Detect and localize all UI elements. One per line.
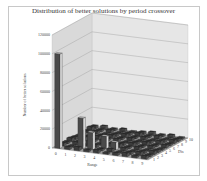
bar-front (93, 150, 98, 153)
x-tick-label: 6 (112, 158, 114, 163)
z-tick-label: 7 (177, 144, 179, 149)
z-tick-label: 10 (189, 137, 193, 142)
bar-side (83, 117, 85, 148)
bar-side (60, 53, 62, 148)
y-axis-label: Number of better solutions (22, 73, 27, 116)
y-tick-label: 0 (48, 145, 50, 150)
x-axis-label: Range (87, 162, 97, 167)
bar-side (93, 132, 95, 150)
bar-front (101, 136, 106, 149)
z-tick-label: 5 (169, 148, 171, 153)
y-tick-label: 80000 (40, 70, 50, 75)
y-tick-label: 120000 (38, 32, 50, 37)
x-tick-label: 0 (55, 151, 57, 156)
x-tick-label: 2 (74, 153, 76, 158)
bar-front (55, 54, 60, 149)
z-tick-label: 2 (157, 155, 159, 160)
x-tick-label: 8 (132, 160, 134, 165)
y-tick-label: 100000 (38, 51, 50, 56)
x-tick-label: 1 (64, 152, 66, 157)
bar-front (112, 153, 117, 156)
y-tick-label: 40000 (40, 108, 50, 113)
x-tick-label: 3 (84, 154, 86, 159)
z-tick-label: 4 (165, 150, 167, 155)
bar-front (74, 147, 79, 151)
bar-front (78, 118, 83, 149)
bar-front (122, 153, 127, 157)
bar-side (106, 135, 108, 148)
z-tick-label: 1 (153, 157, 155, 162)
z-axis-label: Dis (178, 149, 184, 154)
z-tick-label: 9 (185, 139, 187, 144)
bar-front (141, 156, 146, 159)
bar-side (116, 141, 118, 150)
y-tick-label: 60000 (40, 89, 50, 94)
z-tick-label: 6 (173, 146, 175, 151)
x-tick-label: 9 (141, 161, 143, 166)
bar-front (64, 147, 69, 150)
x-tick-label: 5 (103, 157, 105, 162)
bar-front (88, 132, 93, 150)
x-tick-label: 4 (93, 155, 95, 160)
z-tick-label: 8 (181, 142, 183, 147)
bar-chart-3d: 0200004000060000800001000001200000123456… (0, 0, 207, 181)
z-tick-label: 3 (161, 153, 163, 158)
y-tick-label: 20000 (40, 126, 50, 131)
x-tick-label: 7 (122, 159, 124, 164)
